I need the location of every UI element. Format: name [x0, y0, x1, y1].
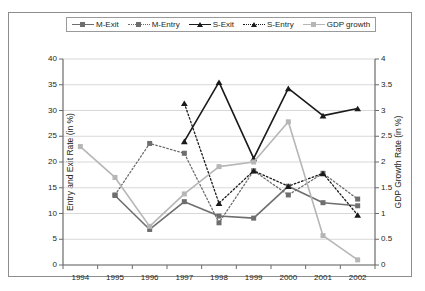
y-axis-left-tick-label: 35 [48, 81, 57, 89]
marker-triangle [216, 79, 223, 85]
legend-label: M-Exit [96, 21, 119, 29]
y-axis-right-tick-label: 4 [381, 55, 385, 63]
series-line-s-entry [184, 103, 357, 215]
series-line-m-entry [115, 143, 358, 222]
x-axis-tick-label: 1995 [106, 274, 124, 282]
x-axis-tick-label: 1994 [71, 274, 89, 282]
marker-square [355, 257, 360, 262]
marker-square [321, 233, 326, 238]
marker-square [355, 197, 360, 202]
chart-frame: M-ExitM-EntryS-ExitS-EntryGDP growth Ent… [8, 12, 412, 277]
legend-swatch-triangle-icon [189, 20, 211, 29]
legend-label: GDP growth [327, 21, 370, 29]
y-axis-right-tick-label: 3 [381, 107, 385, 115]
marker-triangle [285, 86, 292, 92]
marker-square [217, 164, 222, 169]
marker-square [286, 192, 291, 197]
y-axis-left-tick-label: 25 [48, 132, 57, 140]
series-s-exit [181, 79, 361, 161]
y-axis-right-tick-label: 3.5 [381, 81, 392, 89]
marker-square [182, 191, 187, 196]
x-axis-tick-label: 2001 [314, 274, 332, 282]
legend-swatch-square-icon [303, 20, 325, 29]
marker-square [147, 141, 152, 146]
y-axis-left-tick-label: 10 [48, 210, 57, 218]
plot-area: Entry and Exit Rate (in %) GDP Growth Ra… [63, 59, 375, 265]
y-axis-right-tick-label: 2 [381, 158, 385, 166]
chart-legend: M-ExitM-EntryS-ExitS-EntryGDP growth [66, 17, 376, 32]
legend-swatch-square-icon [128, 20, 150, 29]
marker-square [321, 200, 326, 205]
series-line-s-exit [184, 82, 357, 158]
marker-square [251, 216, 256, 221]
series-m-entry [113, 141, 361, 225]
y-axis-left-tick-label: 0 [53, 261, 57, 269]
marker-triangle [181, 139, 188, 145]
legend-label: S-Exit [213, 21, 234, 29]
page-bleed-text [8, 0, 417, 9]
y-axis-right-tick-label: 0.5 [381, 235, 392, 243]
marker-square [78, 144, 83, 149]
legend-swatch-square-icon [72, 20, 94, 29]
series-gdp-growth [78, 119, 360, 262]
y-axis-left-tick-label: 5 [53, 235, 57, 243]
y-axis-right-tick-label: 0 [381, 261, 385, 269]
series-line-m-exit [115, 186, 358, 229]
legend-label: M-Entry [152, 21, 180, 29]
marker-square [147, 224, 152, 229]
chart-screenshot: M-ExitM-EntryS-ExitS-EntryGDP growth Ent… [0, 0, 425, 291]
marker-square [355, 203, 360, 208]
y-axis-left-tick-label: 15 [48, 184, 57, 192]
marker-triangle [181, 100, 188, 106]
y-axis-left-tick-label: 30 [48, 107, 57, 115]
x-axis-tick-label: 2000 [279, 274, 297, 282]
y-axis-right-tick-label: 1.5 [381, 184, 392, 192]
x-axis-tick-label: 1997 [175, 274, 193, 282]
y-axis-left-tick-label: 20 [48, 158, 57, 166]
legend-label: S-Entry [267, 21, 294, 29]
marker-square [217, 214, 222, 219]
marker-triangle [216, 200, 223, 206]
marker-square [251, 160, 256, 165]
marker-square [113, 192, 118, 197]
x-axis-tick-label: 2002 [349, 274, 367, 282]
y-axis-right-tick-label: 2.5 [381, 132, 392, 140]
marker-square [182, 199, 187, 204]
marker-square [217, 220, 222, 225]
marker-square [113, 175, 118, 180]
x-axis-tick-label: 1999 [245, 274, 263, 282]
legend-item-s-exit[interactable]: S-Exit [189, 20, 234, 29]
series-s-entry [181, 100, 361, 217]
y-axis-left-tick-label: 40 [48, 55, 57, 63]
y-axis-right-tick-label: 1 [381, 210, 385, 218]
chart-canvas [63, 59, 375, 265]
x-axis-tick-label: 1998 [210, 274, 228, 282]
legend-item-gdp-growth[interactable]: GDP growth [303, 20, 370, 29]
legend-item-m-entry[interactable]: M-Entry [128, 20, 180, 29]
marker-square [286, 119, 291, 124]
marker-square [182, 151, 187, 156]
legend-item-m-exit[interactable]: M-Exit [72, 20, 119, 29]
legend-item-s-entry[interactable]: S-Entry [243, 20, 294, 29]
y-axis-right-title: GDP Growth Rate (in %) [394, 116, 404, 209]
x-axis-tick-label: 1996 [141, 274, 159, 282]
legend-swatch-triangle-icon [243, 20, 265, 29]
